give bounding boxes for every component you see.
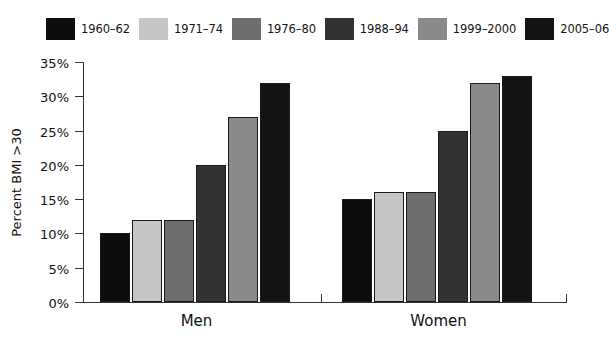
legend-entry: 1988–94: [325, 18, 409, 40]
bar: [196, 165, 226, 302]
legend-entry: 1976–80: [232, 18, 316, 40]
legend-entry: 1999–2000: [418, 18, 516, 40]
legend-swatch-icon: [139, 18, 168, 40]
legend-swatch-icon: [232, 18, 261, 40]
bar: [228, 117, 258, 302]
bar: [438, 131, 468, 302]
y-axis-title-label: Percent BMI >30: [9, 128, 24, 237]
bar-group-men: [100, 62, 295, 302]
y-axis-tick-label: 20%: [40, 158, 69, 173]
bar: [164, 220, 194, 302]
legend-label: 1988–94: [360, 22, 409, 36]
chart-legend: 1960–621971–741976–801988–941999–2000200…: [46, 14, 576, 44]
y-axis-tick-label: 15%: [40, 193, 69, 208]
y-axis-tick: 20%: [75, 165, 84, 166]
legend-label: 1999–2000: [453, 22, 516, 36]
y-axis-tick: 15%: [75, 199, 84, 200]
y-axis-tick: 10%: [75, 233, 84, 234]
legend-entry: 1960–62: [46, 18, 130, 40]
y-axis-tick-label: 10%: [40, 227, 69, 242]
legend-label: 1960–62: [81, 22, 130, 36]
y-axis-tick: 25%: [75, 131, 84, 132]
bar: [470, 83, 500, 302]
legend-label: 1976–80: [267, 22, 316, 36]
group-separator-tick: [321, 294, 322, 303]
y-axis-tick-label: 25%: [40, 124, 69, 139]
bar-group-women: [342, 62, 537, 302]
category-label-men: Men: [99, 312, 294, 330]
legend-label: 1971–74: [174, 22, 223, 36]
axis-end-tick: [566, 294, 567, 303]
bar: [100, 233, 130, 302]
category-label-women: Women: [341, 312, 536, 330]
y-axis-tick: 0%: [75, 302, 84, 303]
y-axis-tick: 5%: [75, 268, 84, 269]
legend-swatch-icon: [325, 18, 354, 40]
y-axis-tick-label: 5%: [48, 261, 69, 276]
legend-entry: 2005–06: [525, 18, 609, 40]
legend-label: 2005–06: [560, 22, 609, 36]
bar: [342, 199, 372, 302]
bar: [260, 83, 290, 302]
legend-swatch-icon: [525, 18, 554, 40]
y-axis-title: Percent BMI >30: [6, 62, 26, 302]
bar: [502, 76, 532, 302]
y-axis-tick-label: 35%: [40, 56, 69, 71]
y-axis-tick-label: 0%: [48, 296, 69, 311]
legend-entry: 1971–74: [139, 18, 223, 40]
y-axis-tick-label: 30%: [40, 90, 69, 105]
y-axis-tick: 35%: [75, 62, 84, 63]
legend-swatch-icon: [418, 18, 447, 40]
bar: [406, 192, 436, 302]
legend-swatch-icon: [46, 18, 75, 40]
bar: [132, 220, 162, 302]
plot-area: 35%30%25%20%15%10%5%0%: [83, 62, 567, 303]
bar: [374, 192, 404, 302]
y-axis-tick: 30%: [75, 96, 84, 97]
